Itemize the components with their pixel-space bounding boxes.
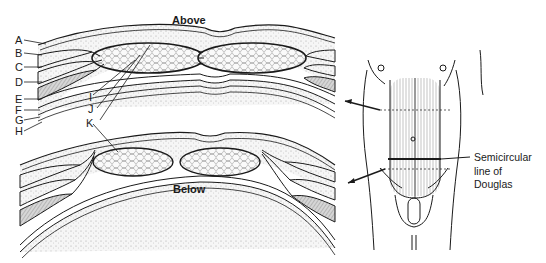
label-c: C: [15, 62, 23, 73]
label-d: D: [15, 77, 23, 88]
below-title: Below: [173, 183, 205, 195]
diagram-stage: Above Below A B C D E F G H I J K Semici…: [0, 0, 546, 263]
annotation-line-1: Semicircular: [474, 151, 532, 165]
anatomy-illustration: [0, 0, 546, 263]
label-i: I: [89, 92, 92, 103]
label-b: B: [15, 48, 22, 59]
annotation-line-3: Douglas: [474, 178, 532, 192]
semicircular-line-annotation: Semicircular line of Douglas: [474, 151, 532, 192]
label-a: A: [15, 35, 22, 46]
torso-figure: [345, 50, 483, 250]
label-k: K: [86, 118, 93, 129]
annotation-line-2: line of: [474, 165, 532, 179]
label-j: J: [88, 104, 94, 115]
above-title: Above: [172, 14, 206, 26]
above-cross-section: [38, 24, 335, 121]
below-cross-section: [20, 132, 335, 258]
label-h: H: [15, 126, 23, 137]
